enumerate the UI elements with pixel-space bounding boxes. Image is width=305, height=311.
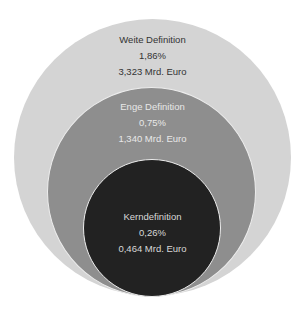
label-value: 3,323 Mrd. Euro (0, 64, 305, 80)
label-value: 0,464 Mrd. Euro (0, 241, 305, 257)
label-title: Kerndefinition (0, 209, 305, 225)
label-weite-definition: Weite Definition 1,86% 3,323 Mrd. Euro (0, 32, 305, 80)
label-title: Enge Definition (0, 99, 305, 115)
label-title: Weite Definition (0, 32, 305, 48)
label-value: 1,340 Mrd. Euro (0, 131, 305, 147)
label-enge-definition: Enge Definition 0,75% 1,340 Mrd. Euro (0, 99, 305, 147)
label-percent: 0,26% (0, 225, 305, 241)
label-percent: 1,86% (0, 48, 305, 64)
label-percent: 0,75% (0, 115, 305, 131)
label-kerndefinition: Kerndefinition 0,26% 0,464 Mrd. Euro (0, 209, 305, 257)
